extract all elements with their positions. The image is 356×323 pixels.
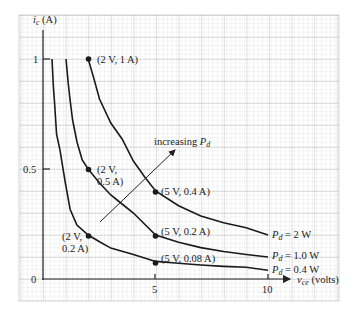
tick-label-y-05: 0.5 xyxy=(23,164,36,175)
label-5v-008a: (5 V, 0.08 A) xyxy=(161,253,216,265)
tick-label-y-0: 0 xyxy=(31,274,36,285)
label-2v-02a-line1: (2 V, xyxy=(62,231,82,243)
point-5v-04a xyxy=(153,189,159,195)
point-2v-02a xyxy=(86,233,92,239)
point-5v-02a xyxy=(153,233,159,239)
tick-label-y-1: 1 xyxy=(33,54,38,65)
point-5v-008a xyxy=(153,260,159,266)
label-5v-04a: (5 V, 0.4 A) xyxy=(161,186,210,198)
label-2v-1a: (2 V, 1 A) xyxy=(97,54,139,66)
label-2v-02a-line2: 0.2 A) xyxy=(62,243,89,255)
tick-label-x-10: 10 xyxy=(262,284,273,295)
power-hyperbola-chart: ic (A) 1 0.5 0 5 10 vce (volts) (2 V, 1 … xyxy=(0,0,356,323)
point-2v-1a xyxy=(86,56,92,62)
point-2v-05a xyxy=(86,167,92,173)
label-5v-02a: (5 V, 0.2 A) xyxy=(161,226,210,238)
tick-label-x-5: 5 xyxy=(152,284,157,295)
label-2v-05a-line1: (2 V, xyxy=(97,164,117,176)
label-2v-05a-line2: 0.5 A) xyxy=(97,176,124,188)
